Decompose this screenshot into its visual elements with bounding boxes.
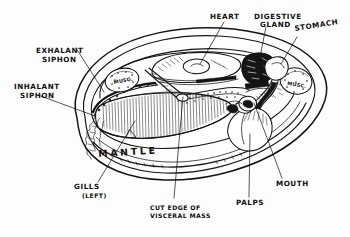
label-heart: HEART (210, 13, 239, 22)
cut-edge-blob (177, 94, 189, 101)
label-exhalant-siphon-line2: SIPHON (42, 56, 77, 65)
label-gills-line1: GILLS (74, 183, 100, 192)
heart-ventricle (183, 59, 209, 74)
label-inhalant-siphon-line2: SIPHON (20, 92, 55, 101)
label-cut-edge-line2: VISCERAL MASS (150, 212, 211, 221)
stomach-chamber (265, 57, 288, 80)
label-gills-line2: (LEFT) (82, 192, 107, 201)
label-mouth: MOUTH (276, 180, 309, 189)
label-palps: PALPS (236, 199, 264, 208)
bivalve-anatomy-figure: HEART DIGESTIVE GLAND STOMACH EXHALANT S… (0, 0, 350, 237)
label-digestive-gland-line2: GLAND (260, 21, 291, 30)
diagram-canvas (0, 0, 350, 237)
